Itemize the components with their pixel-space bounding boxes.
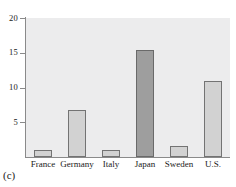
y-axis-tick-label: 20 (0, 14, 18, 23)
figure-caption: (c) (3, 170, 15, 181)
bar-u-s (204, 81, 223, 157)
x-axis-label-italy: Italy (94, 160, 128, 170)
x-axis-label-sweden: Sweden (162, 160, 196, 170)
y-axis-tick-label: 15 (0, 48, 18, 57)
x-axis-label-france: France (26, 160, 60, 170)
y-axis-tick-label: 5 (0, 118, 18, 127)
bar-italy (102, 150, 121, 157)
x-axis-label-u-s: U.S. (196, 160, 230, 170)
bars-layer (26, 18, 230, 157)
y-axis-tick-label: 10 (0, 83, 18, 92)
bar-sweden (170, 146, 189, 157)
x-axis-line (25, 157, 230, 158)
x-axis-label-japan: Japan (128, 160, 162, 170)
bar-germany (68, 110, 87, 157)
bar-chart-figure: 5101520 FranceGermanyItalyJapanSwedenU.S… (0, 0, 236, 187)
bar-france (34, 150, 53, 157)
bar-japan (136, 50, 155, 157)
x-axis-label-germany: Germany (60, 160, 94, 170)
